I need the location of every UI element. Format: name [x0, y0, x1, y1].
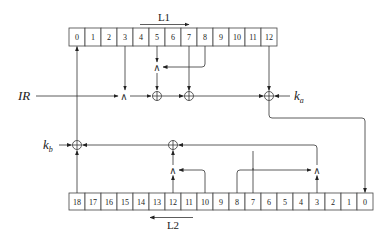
l2-cell-11: 11: [181, 193, 197, 210]
wire-and4-to-xor4: [179, 145, 318, 165]
svg-text:13: 13: [153, 198, 161, 207]
l1-cell-12: 12: [261, 28, 277, 46]
svg-text:4: 4: [139, 33, 143, 42]
l2-cell-18: 18: [69, 193, 85, 210]
l2-label: L2: [167, 219, 179, 231]
svg-text:5: 5: [155, 33, 159, 42]
and-gate-1: ∧: [120, 91, 127, 102]
xor-gate-4: [169, 141, 178, 150]
l1-cell-0: 0: [69, 28, 85, 46]
svg-text:7: 7: [251, 198, 255, 207]
l2-cell-15: 15: [117, 193, 133, 210]
svg-text:6: 6: [171, 33, 175, 42]
l2-cell-1: 1: [341, 193, 357, 210]
l2-cell-9: 9: [213, 193, 229, 210]
l2-cell-6: 6: [261, 193, 277, 210]
l1-cell-5: 5: [149, 28, 165, 46]
register-diagram: 0 1 2 3 4 5 6 7 8 9 10 11 12 L1 IR ∧ ∧: [0, 0, 392, 241]
svg-text:11: 11: [185, 198, 193, 207]
svg-text:0: 0: [363, 198, 367, 207]
l2-cell-4: 4: [293, 193, 309, 210]
svg-text:8: 8: [203, 33, 207, 42]
l2-cell-7: 7: [245, 193, 261, 210]
ka-input-label: ka: [294, 88, 304, 105]
l1-cell-3: 3: [117, 28, 133, 46]
svg-text:2: 2: [331, 198, 335, 207]
l1-cell-9: 9: [213, 28, 229, 46]
l2-cell-5: 5: [277, 193, 293, 210]
l1-cell-8: 8: [197, 28, 213, 46]
l2-cell-14: 14: [133, 193, 149, 210]
svg-text:5: 5: [283, 198, 287, 207]
svg-text:16: 16: [105, 198, 113, 207]
xor-gate-2: [185, 92, 194, 101]
svg-text:10: 10: [201, 198, 209, 207]
l2-cell-10: 10: [197, 193, 213, 210]
svg-text:14: 14: [137, 198, 145, 207]
l2-cell-16: 16: [101, 193, 117, 210]
l2-cell-13: 13: [149, 193, 165, 210]
l1-cell-1: 1: [85, 28, 101, 46]
l2-cell-12: 12: [165, 193, 181, 210]
svg-text:18: 18: [73, 198, 81, 207]
svg-text:12: 12: [265, 33, 273, 42]
l2-cell-2: 2: [325, 193, 341, 210]
l2-cell-3: 3: [309, 193, 325, 210]
svg-text:0: 0: [75, 33, 79, 42]
l1-label: L1: [158, 11, 170, 23]
svg-text:9: 9: [219, 33, 223, 42]
wire-l1-8-to-and2: [163, 46, 205, 67]
l1-cell-4: 4: [133, 28, 149, 46]
and-gate-3: ∧: [169, 165, 176, 176]
wire-l2-10-to-and3: [179, 170, 205, 193]
svg-text:6: 6: [267, 198, 271, 207]
l2-cell-8: 8: [229, 193, 245, 210]
l2-cell-17: 17: [85, 193, 101, 210]
xor-gate-5: [73, 141, 82, 150]
l1-cell-6: 6: [165, 28, 181, 46]
wire-l2-8-to-and4: [237, 170, 311, 193]
l2-cell-0: 0: [357, 193, 373, 210]
xor-gate-3: [265, 92, 274, 101]
top-register-l1: 0 1 2 3 4 5 6 7 8 9 10 11 12: [69, 28, 277, 46]
svg-text:3: 3: [123, 33, 127, 42]
svg-text:7: 7: [187, 33, 191, 42]
and-gate-4: ∧: [313, 165, 320, 176]
svg-text:8: 8: [235, 198, 239, 207]
ir-input-label: IR: [17, 88, 30, 103]
svg-text:10: 10: [233, 33, 241, 42]
svg-text:11: 11: [249, 33, 257, 42]
l1-cell-2: 2: [101, 28, 117, 46]
svg-text:17: 17: [89, 198, 97, 207]
xor-gate-1: [153, 92, 162, 101]
kb-input-label: kb: [43, 137, 53, 154]
svg-text:15: 15: [121, 198, 129, 207]
svg-text:4: 4: [299, 198, 303, 207]
svg-text:12: 12: [169, 198, 177, 207]
svg-text:9: 9: [219, 198, 223, 207]
bottom-register-l2: 18 17 16 15 14 13 12 11 10 9 8 7 6 5 4 3…: [69, 193, 373, 210]
l1-cell-7: 7: [181, 28, 197, 46]
svg-text:1: 1: [91, 33, 95, 42]
and-gate-2: ∧: [153, 62, 160, 73]
svg-text:3: 3: [315, 198, 319, 207]
l1-cell-10: 10: [229, 28, 245, 46]
svg-text:2: 2: [107, 33, 111, 42]
svg-text:1: 1: [347, 198, 351, 207]
l1-cell-11: 11: [245, 28, 261, 46]
